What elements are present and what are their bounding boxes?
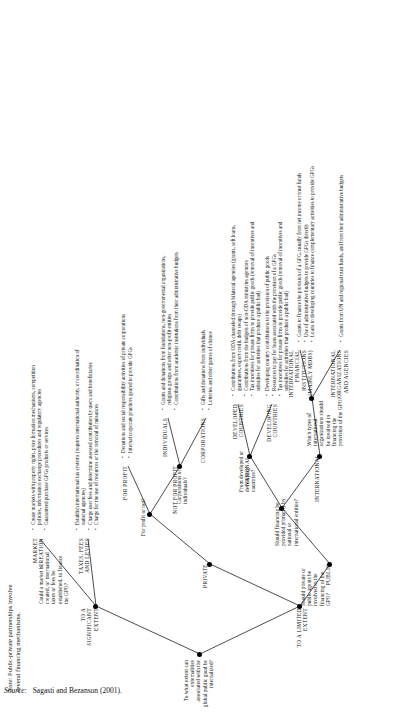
- category-ifis: INTERNATIONAL FINANCIAL INSTITUTIONS (ma…: [288, 350, 314, 400]
- footnote-source-label: Source:: [4, 686, 27, 695]
- bullets-ifis: Grants to finance the provision of a GPG…: [296, 161, 316, 346]
- bullet-item: Gifts and donations from individuals: [200, 239, 206, 409]
- bullet-item: Grants from UN and regional trust funds,…: [338, 161, 344, 341]
- root-question: To what extent can externalities associa…: [183, 660, 214, 710]
- bullets-un-orgs: Grants from UN and regional trust funds,…: [338, 161, 345, 346]
- bullet-item: Donations and social responsibility acti…: [120, 287, 126, 457]
- bullets-developing-countries: Developing country contributions to the …: [264, 215, 290, 400]
- bullet-item: Tax incentives for private firms to prov…: [249, 215, 261, 395]
- bullets-developed-countries: Contributions from ODA channeled through…: [230, 215, 262, 400]
- bullet-item: Loans to developing countries to finance…: [309, 161, 315, 341]
- category-not-for-profit: NOT FOR PROFIT: [172, 466, 178, 514]
- category-private: PRIVATE: [202, 564, 208, 604]
- bullet-item: Grants to finance the provision of a GPG…: [296, 161, 302, 341]
- question-for-profit: For profit or not?: [140, 490, 146, 536]
- bullets-for-profit: Donations and social responsibility acti…: [120, 287, 133, 462]
- bullet-item: Establish international tax systems (req…: [74, 349, 86, 529]
- bullet-item: Guaranteed purchase GPGs products or ser…: [43, 349, 49, 529]
- bullet-item: Contributions from the budgets of non-OD…: [243, 215, 249, 395]
- bullet-item: Lotteries and other games of chance: [207, 239, 213, 409]
- category-public: PUBLIC: [325, 564, 331, 604]
- bullet-item: Grants and donations from foundations, n…: [160, 239, 172, 409]
- bullets-market-creation: Create markets with property rights, pri…: [30, 349, 49, 534]
- bullet-item: Resources to pay for loans associated wi…: [271, 215, 277, 395]
- footnote-note-text: Public-private partnerships involve seve…: [6, 585, 21, 692]
- bullets-not-for-profit: Grants and donations from foundations, n…: [160, 239, 179, 414]
- branch-limited-extent: TO A LIMITED EXTENT: [296, 608, 309, 652]
- diagram-rotated-wrapper: To what extent can externalities associa…: [0, 0, 394, 714]
- footnote-note: Note: Public-private partnerships involv…: [6, 572, 22, 692]
- bullet-item: Charge user fees and determine assessed …: [87, 349, 93, 529]
- bullet-item: Developing country contributions to the …: [264, 215, 270, 395]
- bullet-item: Internal corporate practices geared to p…: [127, 287, 133, 457]
- bullet-item: Create markets with property rights, pri…: [30, 349, 42, 529]
- category-for-profit: FOR PROFIT: [122, 466, 128, 508]
- bullets-individuals: Gifts and donations from individualsLott…: [200, 239, 213, 414]
- bullets-taxes-fees-levies: Establish international tax systems (req…: [74, 349, 100, 534]
- bullet-item: Use of administrative budgets to provide…: [303, 161, 309, 341]
- node-root: [197, 652, 202, 657]
- bullet-item: Contributions from academic institutions…: [173, 239, 179, 409]
- question-national-international: Should financing be provided primarily b…: [274, 496, 299, 546]
- footnote-source-text: Sagasti and Bezanson (2001).: [33, 686, 122, 695]
- bullet-item: Tax incentives for private firms to prov…: [277, 215, 289, 395]
- branch-significant-extent: TO A SIGNIFICANT EXTENT: [80, 608, 99, 652]
- category-individuals: INDIVIDUALS: [162, 418, 168, 464]
- node-for-profit-question: [147, 512, 152, 517]
- category-developing-countries: DEVELOPING COUNTRIES: [266, 404, 279, 458]
- category-market-creation: MARKET CREATION: [32, 538, 45, 584]
- bullet-item: Contributions from ODA channeled through…: [230, 215, 242, 395]
- category-taxes-fees-levies: TAXES, FEES AND LEVIES: [78, 538, 91, 586]
- category-international: INTERNATIONAL: [314, 456, 320, 502]
- question-ifi-or-un: Which types of international organizatio…: [306, 396, 343, 446]
- category-national: NATIONAL: [244, 456, 250, 496]
- tree-diagram-canvas: To what extent can externalities associa…: [0, 0, 394, 714]
- footnote-source: Source: Sagasti and Bezanson (2001).: [4, 686, 264, 695]
- category-corporations: CORPORATIONS: [200, 418, 206, 466]
- category-developed-countries: DEVELOPED COUNTRIES: [232, 404, 245, 456]
- bullet-item: Charge for the use of resources or the r…: [93, 349, 99, 529]
- category-un-orgs: INTERNATIONAL ORGANIZATIONS AND AGENCIES: [330, 350, 349, 400]
